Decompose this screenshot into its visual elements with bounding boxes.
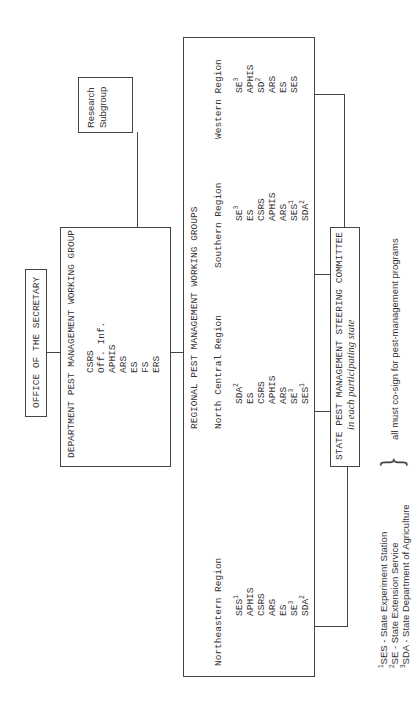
region-members-southern: SE3 ES CSRS APHIS ARS SES1 SDA2 bbox=[234, 192, 311, 221]
connector-northeastern-across bbox=[347, 466, 348, 627]
member: SDA2 bbox=[234, 375, 245, 404]
office-label: OFFICE OF THE SECRETARY bbox=[32, 277, 42, 408]
connector-department-regional bbox=[170, 352, 184, 353]
footnote: 2SE - State Extension Service bbox=[389, 504, 400, 668]
region-members-northeastern: SES1 APHIS CSRS ARS ES SE3 SDA2 bbox=[234, 587, 311, 616]
regional-title: REGIONAL PEST MANAGEMENT WORKING GROUPS bbox=[190, 207, 200, 429]
member: ARS bbox=[267, 64, 278, 93]
state-subtitle: in each participating state bbox=[346, 319, 357, 430]
connector-department-research bbox=[137, 132, 138, 228]
member: CSRS bbox=[85, 322, 96, 373]
member: SES1 bbox=[300, 375, 311, 404]
member: FS bbox=[140, 322, 151, 373]
member: ERS bbox=[151, 322, 162, 373]
right-brace-icon: } bbox=[377, 457, 407, 468]
region-name-southern: Southern Region bbox=[214, 182, 224, 268]
member: SE3 bbox=[234, 192, 245, 221]
department-title: DEPARTMENT PEST MANAGEMENT WORKING GROUP bbox=[67, 230, 77, 458]
connector-north-central-state bbox=[314, 411, 330, 412]
member: SE3 bbox=[289, 375, 300, 404]
connector-western-across bbox=[344, 94, 345, 228]
footnote: 3SDA - State Department of Agriculture bbox=[400, 504, 411, 668]
member: SD2 bbox=[256, 64, 267, 93]
member: CSRS bbox=[256, 587, 267, 616]
member: ES bbox=[129, 322, 140, 373]
member: APHIS bbox=[267, 375, 278, 404]
member: ES bbox=[278, 64, 289, 93]
member: ARS bbox=[118, 322, 129, 373]
department-members: CSRS Off. Inf. APHIS ARS ES FS ERS bbox=[85, 322, 162, 373]
research-line2: Subgroup bbox=[98, 87, 108, 128]
connector-northeastern-down bbox=[314, 626, 348, 627]
state-steering-committee-box: STATE PEST MANAGEMENT STEERING COMMITTEE… bbox=[330, 227, 360, 467]
member: SE3 bbox=[289, 587, 300, 616]
footnotes: 1SES - State Experiment Station 2SE - St… bbox=[378, 504, 411, 668]
department-working-group-box: DEPARTMENT PEST MANAGEMENT WORKING GROUP… bbox=[60, 227, 171, 467]
member: SES1 bbox=[234, 587, 245, 616]
state-title: STATE PEST MANAGEMENT STEERING COMMITTEE bbox=[335, 232, 345, 460]
region-members-western: SE3 APHIS SD2 ARS ES SES bbox=[234, 64, 300, 93]
footnote: 1SES - State Experiment Station bbox=[378, 504, 389, 668]
org-chart: OFFICE OF THE SECRETARY DEPARTMENT PEST … bbox=[0, 0, 415, 724]
member: Off. Inf. bbox=[96, 322, 107, 373]
research-line1: Research bbox=[86, 87, 96, 128]
member: ARS bbox=[278, 192, 289, 221]
member: SES bbox=[289, 64, 300, 93]
office-of-secretary-box: OFFICE OF THE SECRETARY bbox=[25, 269, 47, 417]
member: CSRS bbox=[256, 192, 267, 221]
member: ES bbox=[245, 192, 256, 221]
member: CSRS bbox=[256, 375, 267, 404]
member: ARS bbox=[267, 587, 278, 616]
member: APHIS bbox=[107, 322, 118, 373]
connector-office-department bbox=[47, 352, 61, 353]
member: SDA2 bbox=[300, 192, 311, 221]
connector-western-down bbox=[314, 94, 345, 95]
member: SE3 bbox=[234, 64, 245, 93]
region-name-northeastern: Northeastern Region bbox=[214, 558, 224, 666]
member: SES1 bbox=[289, 192, 300, 221]
regional-working-groups-box: REGIONAL PEST MANAGEMENT WORKING GROUPS … bbox=[183, 37, 315, 677]
cosign-note: all must co-sign for pest-management pro… bbox=[390, 238, 400, 440]
region-name-north-central: North Central Region bbox=[214, 315, 224, 429]
research-subgroup-box: Research Subgroup bbox=[78, 77, 133, 133]
region-members-north-central: SDA2 ES CSRS APHIS ARS SE3 SES1 bbox=[234, 375, 311, 404]
region-name-western: Western Region bbox=[214, 59, 224, 139]
member: APHIS bbox=[267, 192, 278, 221]
member: SDA2 bbox=[300, 587, 311, 616]
member: APHIS bbox=[245, 587, 256, 616]
connector-southern-state bbox=[314, 274, 330, 275]
member: ES bbox=[245, 375, 256, 404]
